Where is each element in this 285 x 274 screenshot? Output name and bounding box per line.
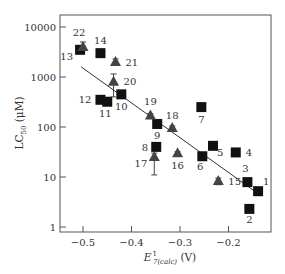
square-marker <box>95 48 105 58</box>
triangle-marker <box>172 147 183 157</box>
point-label: 18 <box>166 110 179 121</box>
point-label: 11 <box>99 108 112 119</box>
square-marker <box>253 186 263 196</box>
point-label: 19 <box>144 96 157 107</box>
square-marker <box>152 119 162 129</box>
data-point-21: 21 <box>110 56 138 68</box>
triangle-marker <box>110 56 121 66</box>
point-label: 21 <box>125 57 138 68</box>
data-point-5: 5 <box>208 141 223 158</box>
x-tick-label: −0.5 <box>71 237 95 248</box>
data-point-16: 16 <box>171 147 184 171</box>
point-label: 7 <box>198 114 204 125</box>
x-axis-title: E17(calc) (V) <box>143 250 196 266</box>
y-tick-label: 10 <box>43 172 56 183</box>
point-label: 5 <box>217 147 223 158</box>
data-point-9: 9 <box>152 119 162 141</box>
square-marker <box>116 89 126 99</box>
data-point-7: 7 <box>196 102 206 125</box>
scatter-chart: 110100100010000 −0.5−0.4−0.3−0.2 1234567… <box>0 0 285 274</box>
point-label: 14 <box>94 35 107 46</box>
data-point-10: 10 <box>115 89 128 112</box>
point-label: 17 <box>135 158 148 169</box>
triangle-marker <box>167 122 178 132</box>
square-marker <box>231 147 241 157</box>
y-tick-label: 100 <box>37 122 56 133</box>
point-label: 20 <box>124 76 137 87</box>
square-marker <box>197 151 207 161</box>
x-tick-label: −0.3 <box>168 237 192 248</box>
triangle-marker <box>149 151 160 161</box>
point-label: 12 <box>79 94 92 105</box>
point-label: 9 <box>154 130 160 141</box>
data-point-4: 4 <box>231 147 252 158</box>
square-marker <box>95 95 105 105</box>
data-point-19: 19 <box>144 96 157 119</box>
data-point-1: 1 <box>253 176 269 196</box>
y-axis-title: LC50 (μM) <box>13 96 28 149</box>
point-label: 13 <box>60 51 73 62</box>
data-point-8: 8 <box>142 142 161 153</box>
y-tick-label: 1 <box>50 222 56 233</box>
point-label: 10 <box>115 101 128 112</box>
point-label: 16 <box>171 160 184 171</box>
data-point-2: 2 <box>244 204 254 225</box>
data-point-14: 14 <box>94 35 107 58</box>
square-marker <box>196 102 206 112</box>
triangle-marker <box>145 109 156 119</box>
point-label: 22 <box>73 27 86 38</box>
point-label: 8 <box>142 142 148 153</box>
point-label: 6 <box>197 161 203 172</box>
point-label: 4 <box>246 147 252 158</box>
data-points: 12345678910111213141516171819202122 <box>60 27 269 225</box>
x-tick-label: −0.2 <box>216 237 240 248</box>
data-point-15: 15 <box>213 175 241 187</box>
point-label: 2 <box>246 214 252 225</box>
triangle-marker <box>213 175 224 185</box>
square-marker <box>151 142 161 152</box>
y-tick-label: 1000 <box>31 72 56 83</box>
triangle-marker <box>108 76 119 86</box>
square-marker <box>242 177 252 187</box>
x-axis: −0.5−0.4−0.3−0.2 <box>71 226 241 248</box>
data-point-3: 3 <box>242 163 252 187</box>
square-marker <box>244 204 254 214</box>
data-point-22: 22 <box>73 27 89 51</box>
plot-frame <box>60 15 271 232</box>
point-label: 15 <box>228 176 241 187</box>
x-tick-label: −0.4 <box>119 237 143 248</box>
point-label: 1 <box>263 176 269 187</box>
point-label: 3 <box>242 163 248 174</box>
data-point-17: 17 <box>135 151 160 175</box>
data-point-6: 6 <box>197 151 207 172</box>
y-tick-label: 10000 <box>24 22 56 33</box>
data-point-12: 12 <box>79 94 106 105</box>
